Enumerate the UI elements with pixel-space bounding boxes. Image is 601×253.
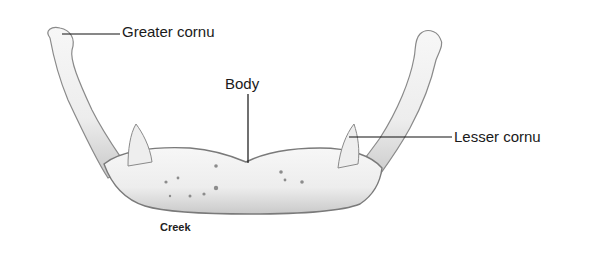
hyoid-bone-illustration xyxy=(0,0,601,253)
illustrator-credit: Creek xyxy=(160,222,191,233)
label-greater-cornu: Greater cornu xyxy=(122,24,215,39)
label-lesser-cornu: Lesser cornu xyxy=(454,129,541,144)
left-greater-cornu xyxy=(48,27,128,178)
right-lesser-cornu xyxy=(338,124,359,168)
left-lesser-cornu xyxy=(128,124,152,166)
label-body: Body xyxy=(225,76,259,91)
